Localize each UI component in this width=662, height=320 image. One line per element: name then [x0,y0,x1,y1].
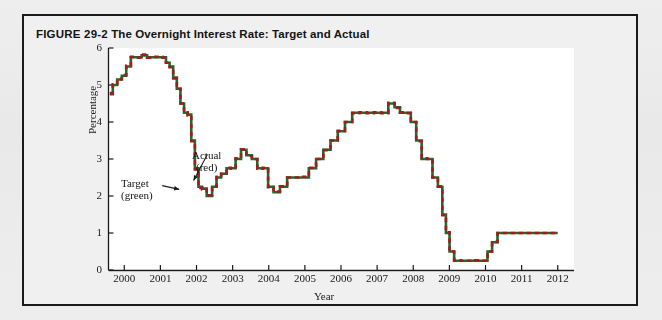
annotation-target-line2: (green) [121,189,153,201]
y-axis-title: Percentage [86,86,98,134]
annotation-actual-line1: Actual [192,149,221,161]
figure-box: FIGURE 29-2 The Overnight Interest Rate:… [22,14,638,306]
chart-plot-area: Percentage Year Target (green) Actual (r… [24,16,638,306]
annotation-target-line1: Target [121,177,153,189]
line-chart-canvas [24,16,638,306]
annotation-actual: Actual (red) [192,149,221,173]
annotation-actual-line2: (red) [192,161,221,173]
page-root: FIGURE 29-2 The Overnight Interest Rate:… [0,0,662,320]
annotation-target: Target (green) [121,177,153,201]
x-axis-title: Year [314,290,334,302]
